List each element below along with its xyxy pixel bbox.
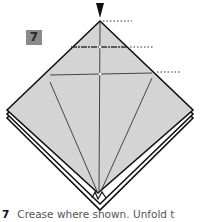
caption-step-number: 7 — [2, 208, 9, 220]
caption-text: Crease where shown. Unfold t — [17, 208, 174, 220]
step-caption: 7Crease where shown. Unfold t — [2, 208, 202, 220]
step-number-badge: 7 — [26, 30, 42, 45]
push-arrow-icon — [96, 3, 104, 18]
